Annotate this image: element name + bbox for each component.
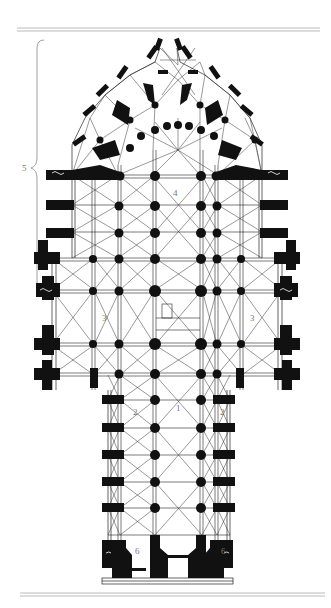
label-transept-left: 3: [102, 313, 107, 323]
label-transept-right: 3: [250, 313, 255, 323]
label-nave: 1: [176, 403, 181, 413]
top-rule: [17, 28, 320, 31]
label-choir: 4: [173, 188, 178, 198]
grid-lines: [52, 150, 282, 578]
label-aisle-left: 2: [133, 407, 138, 417]
vault-ribs: [52, 48, 282, 535]
bottom-rule: [20, 593, 325, 596]
label-tower-left: 6: [135, 546, 140, 556]
room-labels: 4 3 3 1 2 2 6 6: [102, 188, 255, 556]
label-tower-right: 6: [221, 546, 226, 556]
cathedral-floor-plan: 5: [0, 0, 331, 608]
buttresses: [34, 38, 300, 578]
bracket-label: 5: [22, 163, 27, 173]
label-aisle-right: 2: [220, 407, 225, 417]
